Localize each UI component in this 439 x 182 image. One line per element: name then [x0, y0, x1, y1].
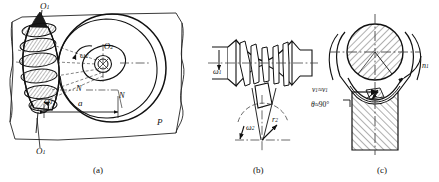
section-label-N-left: N [76, 84, 82, 93]
omega2-arrow [240, 126, 244, 139]
n1-label: n1 [422, 62, 429, 70]
worm-thread [273, 45, 279, 84]
panel-b [208, 40, 318, 152]
caption-b: (b) [253, 166, 264, 175]
right-angle-marker [343, 100, 350, 107]
caption-a: (a) [93, 166, 103, 175]
contact-angle-label: θ≈90° [311, 101, 329, 109]
worm-axis-label-top: O1 [40, 2, 50, 11]
contact-ray [57, 62, 96, 64]
worm-axis-label-bottom: O1 [36, 147, 46, 156]
worm-thread-group [240, 41, 289, 86]
O1-bottom-leader [37, 118, 40, 148]
center-distance-label: a [78, 99, 83, 108]
omega2-label-a: ω2 [80, 52, 88, 60]
omega1-label-b: ω1 [213, 68, 221, 76]
worm-thread [283, 42, 289, 86]
worm-thread [262, 47, 269, 82]
worm-thread [251, 44, 259, 84]
sliding-velocity-label: v1≈v1 [312, 86, 328, 94]
worm-drive-figure [0, 0, 439, 182]
contact-ray [56, 69, 99, 76]
panel-c [329, 14, 421, 155]
panel-a [10, 10, 184, 148]
r2-label: r2 [272, 116, 278, 124]
wheel-center-label: O2 [104, 42, 113, 51]
section-label-N-right: N [119, 91, 125, 100]
omega1-label-a: ω1 [44, 98, 52, 106]
plane-torn-edge [176, 23, 184, 133]
omega2-label-b: ω2 [246, 124, 254, 132]
plane-label-P: P [157, 118, 163, 127]
r2-radius-arrow [262, 125, 277, 140]
caption-c: (c) [377, 166, 387, 175]
